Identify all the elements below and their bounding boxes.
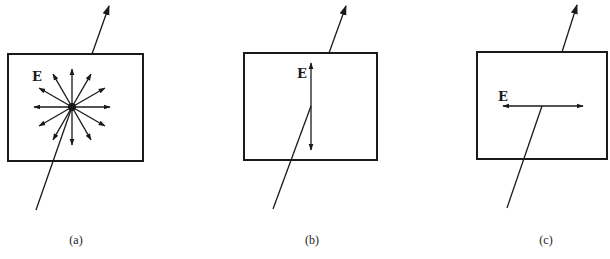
ray-point-a bbox=[68, 103, 76, 111]
polarization-diagram: E (a) E (b) E (c) bbox=[0, 0, 610, 259]
caption-c: (c) bbox=[539, 233, 552, 247]
light-ray-out-a bbox=[92, 6, 109, 54]
panel-b: E (b) bbox=[244, 6, 377, 247]
light-ray-out-b bbox=[329, 6, 346, 53]
light-ray-in-c bbox=[507, 106, 542, 208]
light-ray-in-a bbox=[36, 107, 72, 210]
caption-a: (a) bbox=[69, 233, 82, 247]
e-field-label-a: E bbox=[32, 69, 42, 84]
light-ray-out-c bbox=[562, 5, 577, 52]
light-ray-in-b bbox=[273, 106, 311, 209]
e-field-label-b: E bbox=[297, 66, 307, 81]
e-field-label-c: E bbox=[498, 89, 508, 104]
panel-a: E (a) bbox=[8, 6, 143, 247]
panel-c: E (c) bbox=[477, 5, 607, 247]
caption-b: (b) bbox=[305, 233, 319, 247]
